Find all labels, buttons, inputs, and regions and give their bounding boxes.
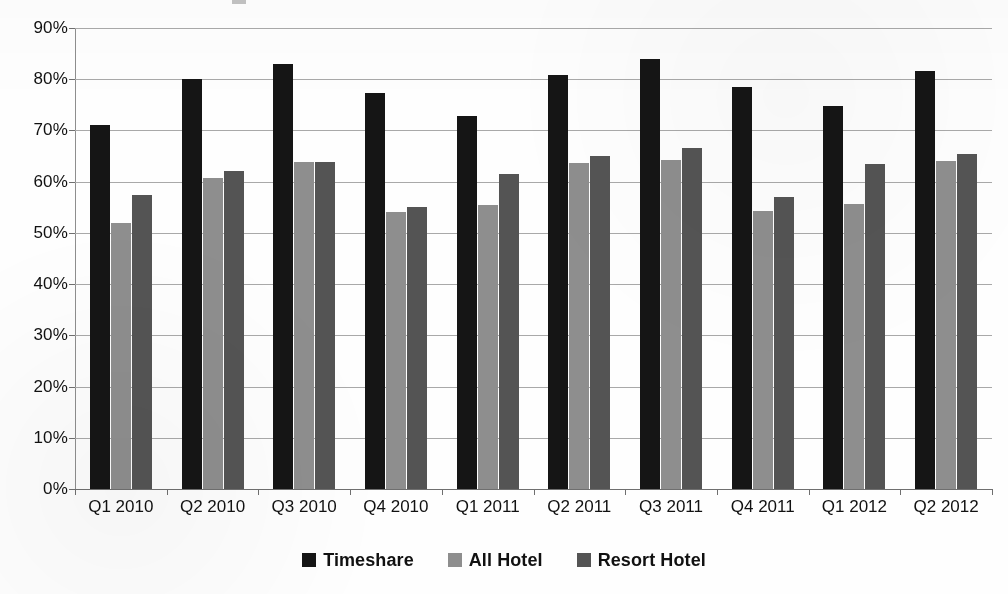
bar-group: [900, 28, 992, 489]
bar-group: [809, 28, 901, 489]
scan-artifact: [232, 0, 246, 4]
bar-group: [258, 28, 350, 489]
bar-all-hotel[interactable]: [661, 160, 681, 489]
bar-timeshare[interactable]: [640, 59, 660, 489]
y-axis-label: 30%: [6, 326, 68, 343]
y-axis-label: 60%: [6, 173, 68, 190]
bar-resort-hotel[interactable]: [774, 197, 794, 489]
bar-all-hotel[interactable]: [294, 162, 314, 489]
bar-all-hotel[interactable]: [386, 212, 406, 489]
chart-legend: TimeshareAll HotelResort Hotel: [0, 546, 1008, 574]
bars-layer: [75, 28, 992, 489]
y-axis-label: 70%: [6, 121, 68, 138]
gray-square-icon: [448, 553, 462, 567]
bar-resort-hotel[interactable]: [315, 162, 335, 489]
y-axis-label: 0%: [6, 480, 68, 497]
x-axis-label: Q3 2011: [625, 497, 717, 517]
y-axis: 0%10%20%30%40%50%60%70%80%90%: [0, 28, 68, 489]
x-axis-label: Q4 2010: [350, 497, 442, 517]
x-axis-label: Q1 2010: [75, 497, 167, 517]
x-tick-mark: [717, 489, 718, 495]
bar-group: [442, 28, 534, 489]
bar-timeshare[interactable]: [365, 93, 385, 489]
bar-resort-hotel[interactable]: [865, 164, 885, 489]
legend-label: All Hotel: [469, 550, 543, 571]
y-axis-label: 10%: [6, 429, 68, 446]
legend-item-resort-hotel[interactable]: Resort Hotel: [577, 550, 706, 571]
bar-resort-hotel[interactable]: [224, 171, 244, 489]
x-axis-label: Q4 2011: [717, 497, 809, 517]
bar-timeshare[interactable]: [548, 75, 568, 489]
x-tick-mark: [809, 489, 810, 495]
x-axis-ticks: [75, 489, 992, 497]
occupancy-bar-chart: 0%10%20%30%40%50%60%70%80%90% Q1 2010Q2 …: [0, 0, 1008, 594]
bar-resort-hotel[interactable]: [499, 174, 519, 489]
bar-group: [625, 28, 717, 489]
x-axis-label: Q2 2010: [167, 497, 259, 517]
black-square-icon: [302, 553, 316, 567]
bar-all-hotel[interactable]: [844, 204, 864, 489]
x-axis-label: Q1 2011: [442, 497, 534, 517]
bar-timeshare[interactable]: [823, 106, 843, 489]
x-tick-mark: [75, 489, 76, 495]
bar-group: [717, 28, 809, 489]
x-tick-mark: [167, 489, 168, 495]
x-tick-mark: [534, 489, 535, 495]
legend-label: Timeshare: [323, 550, 414, 571]
x-tick-mark: [625, 489, 626, 495]
bar-resort-hotel[interactable]: [682, 148, 702, 489]
x-tick-mark: [992, 489, 993, 495]
y-axis-label: 40%: [6, 275, 68, 292]
bar-timeshare[interactable]: [732, 87, 752, 489]
bar-resort-hotel[interactable]: [957, 154, 977, 490]
bar-timeshare[interactable]: [182, 79, 202, 489]
bar-timeshare[interactable]: [90, 125, 110, 489]
dark-gray-square-icon: [577, 553, 591, 567]
bar-group: [167, 28, 259, 489]
bar-all-hotel[interactable]: [111, 223, 131, 489]
x-tick-mark: [900, 489, 901, 495]
bar-resort-hotel[interactable]: [590, 156, 610, 489]
x-tick-mark: [442, 489, 443, 495]
bar-resort-hotel[interactable]: [132, 195, 152, 489]
bar-all-hotel[interactable]: [936, 161, 956, 489]
bar-timeshare[interactable]: [915, 71, 935, 489]
y-axis-label: 80%: [6, 70, 68, 87]
plot-area: [75, 28, 992, 489]
y-axis-label: 90%: [6, 19, 68, 36]
bar-resort-hotel[interactable]: [407, 207, 427, 489]
x-tick-mark: [258, 489, 259, 495]
bar-group: [75, 28, 167, 489]
bar-all-hotel[interactable]: [203, 178, 223, 489]
bar-all-hotel[interactable]: [753, 211, 773, 489]
bar-all-hotel[interactable]: [569, 163, 589, 489]
bar-group: [534, 28, 626, 489]
y-axis-label: 20%: [6, 378, 68, 395]
legend-item-all-hotel[interactable]: All Hotel: [448, 550, 543, 571]
y-axis-label: 50%: [6, 224, 68, 241]
bar-timeshare[interactable]: [457, 116, 477, 489]
bar-all-hotel[interactable]: [478, 205, 498, 489]
x-axis: Q1 2010Q2 2010Q3 2010Q4 2010Q1 2011Q2 20…: [75, 497, 992, 523]
x-axis-label: Q2 2011: [534, 497, 626, 517]
x-tick-mark: [350, 489, 351, 495]
bar-timeshare[interactable]: [273, 64, 293, 489]
bar-group: [350, 28, 442, 489]
legend-item-timeshare[interactable]: Timeshare: [302, 550, 414, 571]
legend-label: Resort Hotel: [598, 550, 706, 571]
x-axis-label: Q3 2010: [258, 497, 350, 517]
x-axis-label: Q2 2012: [900, 497, 992, 517]
x-axis-label: Q1 2012: [809, 497, 901, 517]
